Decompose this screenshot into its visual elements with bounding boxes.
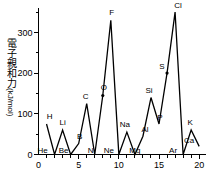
svg-text:0: 0 bbox=[36, 160, 41, 170]
element-symbol-labels: HHeLiBeBCNOFNeNaMgAlSiPSClArKCa bbox=[37, 1, 194, 154]
svg-text:5: 5 bbox=[76, 160, 81, 170]
element-label-h: H bbox=[47, 112, 53, 121]
x-axis-major-ticks bbox=[79, 155, 200, 160]
plot-area: HHeLiBeBCNOFNeNaMgAlSiPSClArKCa 01002003… bbox=[0, 0, 213, 183]
element-label-na: Na bbox=[120, 120, 131, 129]
y-axis-unit-text: (kJ/mol) bbox=[6, 88, 15, 116]
svg-text:100: 100 bbox=[17, 109, 32, 119]
electron-affinity-chart: HHeLiBeBCNOFNeNaMgAlSiPSClArKCa 01002003… bbox=[0, 0, 213, 183]
element-label-k: K bbox=[187, 118, 193, 127]
element-label-he: He bbox=[37, 146, 48, 155]
svg-text:20: 20 bbox=[194, 160, 204, 170]
element-label-ar: Ar bbox=[169, 146, 177, 155]
element-label-li: Li bbox=[59, 118, 65, 127]
element-label-be: Be bbox=[59, 146, 69, 155]
element-label-c: C bbox=[83, 92, 89, 101]
svg-text:10: 10 bbox=[114, 160, 124, 170]
y-axis-title-text: 電子親和力 bbox=[5, 38, 16, 88]
element-label-ca: Ca bbox=[184, 136, 195, 145]
svg-text:0: 0 bbox=[27, 150, 32, 160]
element-label-cl: Cl bbox=[174, 1, 182, 10]
svg-text:300: 300 bbox=[17, 28, 32, 38]
element-label-ne: Ne bbox=[104, 146, 115, 155]
x-axis-tick-labels: 05101520 bbox=[36, 160, 204, 170]
data-point-markers bbox=[101, 72, 168, 98]
element-label-o: O bbox=[101, 83, 107, 92]
element-label-s: S bbox=[159, 62, 164, 71]
element-label-al: Al bbox=[141, 125, 148, 134]
element-label-f: F bbox=[109, 8, 114, 17]
element-label-b: B bbox=[77, 132, 82, 141]
electron-affinity-line bbox=[47, 12, 200, 154]
element-label-n: N bbox=[88, 146, 94, 155]
element-label-si: Si bbox=[145, 86, 152, 95]
y-axis-tick-labels: 0100200300 bbox=[17, 28, 32, 160]
svg-text:15: 15 bbox=[154, 160, 164, 170]
y-axis-title: 電子親和力 (kJ/mol) bbox=[2, 38, 18, 148]
element-label-p: P bbox=[157, 113, 162, 122]
element-label-mg: Mg bbox=[129, 146, 140, 155]
svg-text:200: 200 bbox=[17, 68, 32, 78]
